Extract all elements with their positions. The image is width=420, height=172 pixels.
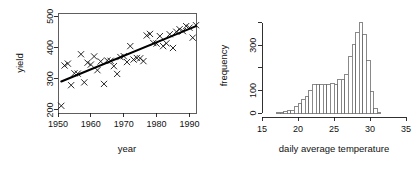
histogram-panel: 0100300 1520253035 frequency daily avera… (210, 0, 420, 172)
y-axis-ticks (258, 23, 262, 113)
histogram-bar (341, 79, 345, 113)
histogram-bar (366, 61, 370, 113)
data-point-marker (88, 61, 94, 67)
histogram-bar (327, 85, 331, 113)
histogram-bar (374, 109, 378, 113)
data-point-marker (157, 33, 163, 39)
x-tick-label: 35 (401, 124, 411, 134)
histogram-bar (356, 33, 360, 113)
x-axis-ticks (58, 113, 189, 117)
histogram-bar (320, 85, 324, 114)
histogram-bar (294, 106, 298, 113)
scatter-plot-svg: 200300400500 19501960197019801990 yield … (0, 0, 210, 172)
data-point-marker (65, 61, 71, 67)
data-point-marker (190, 35, 196, 41)
data-point-marker (84, 60, 90, 66)
histogram-bar (330, 84, 334, 113)
y-tick-label: 300 (248, 38, 258, 53)
data-point-marker (124, 59, 130, 65)
scatter-plot-panel: 200300400500 19501960197019801990 yield … (0, 0, 210, 172)
histogram-bar (305, 97, 309, 113)
histogram-bar (323, 84, 327, 113)
x-axis-title: year (118, 143, 136, 154)
x-tick-label: 25 (329, 124, 339, 134)
y-axis-tick-labels: 0100300 (248, 38, 258, 116)
x-tick-label: 1960 (81, 119, 101, 129)
histogram-bar (280, 112, 284, 113)
data-point-marker (140, 58, 146, 64)
data-point-marker (101, 81, 107, 87)
histogram-bar (312, 84, 316, 113)
x-tick-label: 30 (365, 124, 375, 134)
data-point-marker (78, 51, 84, 57)
histogram-bar (291, 110, 295, 113)
y-tick-label: 300 (45, 71, 55, 86)
x-axis-tick-labels: 1520253035 (257, 124, 411, 134)
y-tick-label: 200 (45, 102, 55, 117)
y-axis-tick-labels: 200300400500 (45, 9, 55, 118)
histogram-bar (377, 112, 381, 113)
data-point-marker (170, 45, 176, 51)
data-point-marker (58, 103, 64, 109)
histogram-bar (338, 80, 342, 113)
x-tick-label: 20 (293, 124, 303, 134)
histogram-bar (298, 104, 302, 114)
x-tick-label: 1990 (179, 119, 199, 129)
histogram-bars-group (276, 23, 380, 114)
x-tick-label: 1980 (147, 119, 167, 129)
y-axis-title: yield (14, 53, 25, 73)
data-point-marker (163, 40, 169, 46)
histogram-bar (284, 111, 288, 113)
histogram-bar (345, 74, 349, 113)
histogram-bar (359, 23, 363, 113)
histogram-bar (316, 85, 320, 114)
data-point-marker (68, 82, 74, 88)
y-axis-title: frequency (218, 44, 229, 86)
plot-box (58, 13, 196, 113)
x-tick-label: 1970 (114, 119, 134, 129)
y-tick-label: 500 (45, 9, 55, 24)
x-axis-tick-labels: 19501960197019801990 (48, 119, 199, 129)
histogram-bar (302, 100, 306, 113)
x-tick-label: 1950 (48, 119, 68, 129)
data-point-marker (91, 53, 97, 59)
histogram-bar (352, 44, 356, 113)
histogram-bar (276, 113, 280, 114)
y-tick-label: 0 (248, 110, 258, 115)
histogram-bar (309, 91, 313, 113)
histogram-svg: 0100300 1520253035 frequency daily avera… (210, 0, 420, 172)
histogram-bar (334, 84, 338, 113)
data-points-group (58, 22, 199, 109)
x-axis-ticks (262, 117, 406, 121)
y-tick-label: 400 (45, 40, 55, 55)
data-point-marker (114, 71, 120, 77)
histogram-bar (363, 34, 367, 113)
data-point-marker (81, 79, 87, 85)
histogram-bar (348, 56, 352, 113)
x-tick-label: 15 (257, 124, 267, 134)
histogram-bar (370, 92, 374, 113)
data-point-marker (61, 62, 67, 68)
x-axis-title: daily average temperature (279, 143, 389, 154)
plot-frame (58, 13, 196, 113)
y-tick-label: 100 (248, 83, 258, 98)
data-point-marker (127, 43, 133, 49)
figure-canvas: 200300400500 19501960197019801990 yield … (0, 0, 420, 172)
histogram-bar (287, 111, 291, 113)
y-axis-ticks (54, 16, 58, 110)
data-point-marker (111, 63, 117, 69)
